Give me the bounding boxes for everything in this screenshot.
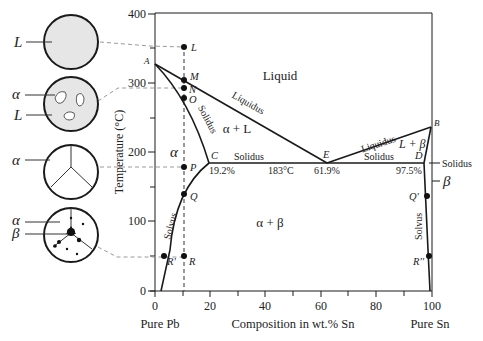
- microstructure-liquid: L: [13, 15, 98, 69]
- x-axis-labels: 0 20 40 60 80 100: [152, 299, 441, 313]
- composition-C: 19.2%: [209, 165, 235, 176]
- y-axis-labels: 400 300 200 100 0: [128, 7, 146, 298]
- microstructure-alpha-beta: α β: [11, 208, 98, 262]
- label-E: E: [322, 149, 330, 160]
- liquidus-left: [155, 64, 327, 163]
- pure-sn-label: Pure Sn: [410, 317, 450, 331]
- label-A: A: [143, 56, 150, 66]
- solidus-label-alpha: Solidus: [196, 103, 220, 135]
- region-alpha-beta: α + β: [256, 215, 284, 230]
- x-axis-ticks: [155, 291, 432, 297]
- solidus-label-eutectic-right: Solidus: [364, 151, 394, 162]
- micro-label-alpha-1: α: [12, 86, 21, 102]
- solvus-beta: [424, 163, 430, 291]
- label-B: B: [434, 118, 440, 128]
- micro-label-L: L: [13, 34, 22, 50]
- label-R-prime: R': [166, 256, 176, 267]
- label-R-double-prime: R'': [412, 256, 425, 267]
- x-tick-60: 60: [315, 299, 327, 313]
- label-Q: Q: [190, 191, 198, 202]
- composition-E: 61.9%: [314, 165, 340, 176]
- region-beta: β: [442, 173, 451, 189]
- solvus-label-beta: Solvus: [413, 213, 424, 240]
- micro-label-L-2: L: [13, 107, 22, 123]
- label-P: P: [189, 162, 197, 173]
- liquidus-label-left: Liquidus: [230, 89, 266, 116]
- region-alpha: α: [170, 144, 179, 160]
- solidus-label-eutectic-left: Solidus: [234, 151, 264, 162]
- label-M: M: [189, 71, 200, 82]
- microstructure-alpha-grains: α: [12, 145, 98, 199]
- y-axis-title: Temperature (°C): [112, 110, 126, 194]
- eutectic-temperature: 183°C: [268, 165, 294, 176]
- label-R: R: [188, 256, 196, 267]
- solvus-label-alpha: Solvus: [161, 211, 179, 240]
- x-tick-0: 0: [152, 299, 158, 313]
- x-tick-40: 40: [259, 299, 271, 313]
- composition-D: 97.5%: [396, 165, 422, 176]
- x-tick-100: 100: [423, 299, 441, 313]
- micro-label-beta: β: [11, 225, 20, 241]
- region-L-beta: L + β: [398, 137, 426, 151]
- region-alpha-L: α + L: [223, 121, 252, 136]
- label-Q-prime: Q': [409, 191, 420, 202]
- microstructure-alpha-in-liquid: α L: [12, 77, 98, 131]
- solidus-label-beta: Solidus: [442, 158, 472, 169]
- y-tick-200: 200: [128, 145, 146, 159]
- pure-pb-label: Pure Pb: [140, 317, 179, 331]
- label-C: C: [211, 150, 219, 161]
- micro-label-alpha-2: α: [12, 152, 21, 168]
- label-L: L: [190, 42, 197, 53]
- x-tick-20: 20: [204, 299, 216, 313]
- y-tick-0: 0: [140, 284, 146, 298]
- label-D: D: [414, 150, 423, 161]
- x-axis-title: Composition in wt.% Sn: [232, 317, 356, 331]
- label-O: O: [189, 94, 197, 105]
- phase-diagram: 400 300 200 100 0 Temperature (°C) 0 20 …: [0, 0, 483, 341]
- region-liquid: Liquid: [263, 68, 298, 83]
- x-tick-80: 80: [370, 299, 382, 313]
- y-tick-400: 400: [128, 7, 146, 21]
- y-tick-100: 100: [128, 214, 146, 228]
